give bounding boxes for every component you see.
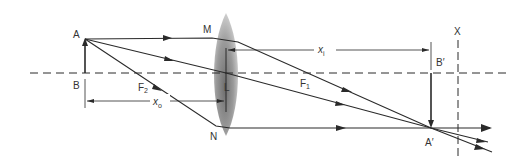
label-x: X — [454, 26, 461, 37]
ray-arrow-icon — [476, 138, 486, 143]
lens-ray-diagram: A B M N L F2 F1 xo xi A′ B′ X — [0, 0, 511, 166]
ray-arrow-icon — [335, 101, 345, 106]
label-f1: F1 — [300, 78, 310, 90]
ray-arrow-icon — [163, 35, 172, 41]
ray-arrow-icon — [481, 124, 492, 132]
label-a: A — [73, 29, 80, 40]
label-m: M — [203, 24, 211, 35]
ray-arrow-icon — [474, 144, 485, 150]
label-f2: F2 — [138, 82, 148, 94]
ray-arrow-icon — [164, 56, 174, 61]
xo-left-arrow-icon — [87, 99, 94, 103]
label-n: N — [210, 131, 217, 142]
ray-focal — [85, 39, 490, 128]
ray-arrow-icon — [341, 87, 352, 92]
label-b: B — [73, 80, 80, 91]
xi-right-arrow-icon — [422, 48, 429, 52]
label-a-prime: A′ — [425, 137, 434, 148]
diagram-canvas: A B M N L F2 F1 xo xi A′ B′ X — [0, 0, 511, 166]
label-b-prime: B′ — [436, 57, 445, 68]
label-l: L — [224, 82, 230, 93]
ray-arrow-icon — [336, 125, 346, 131]
